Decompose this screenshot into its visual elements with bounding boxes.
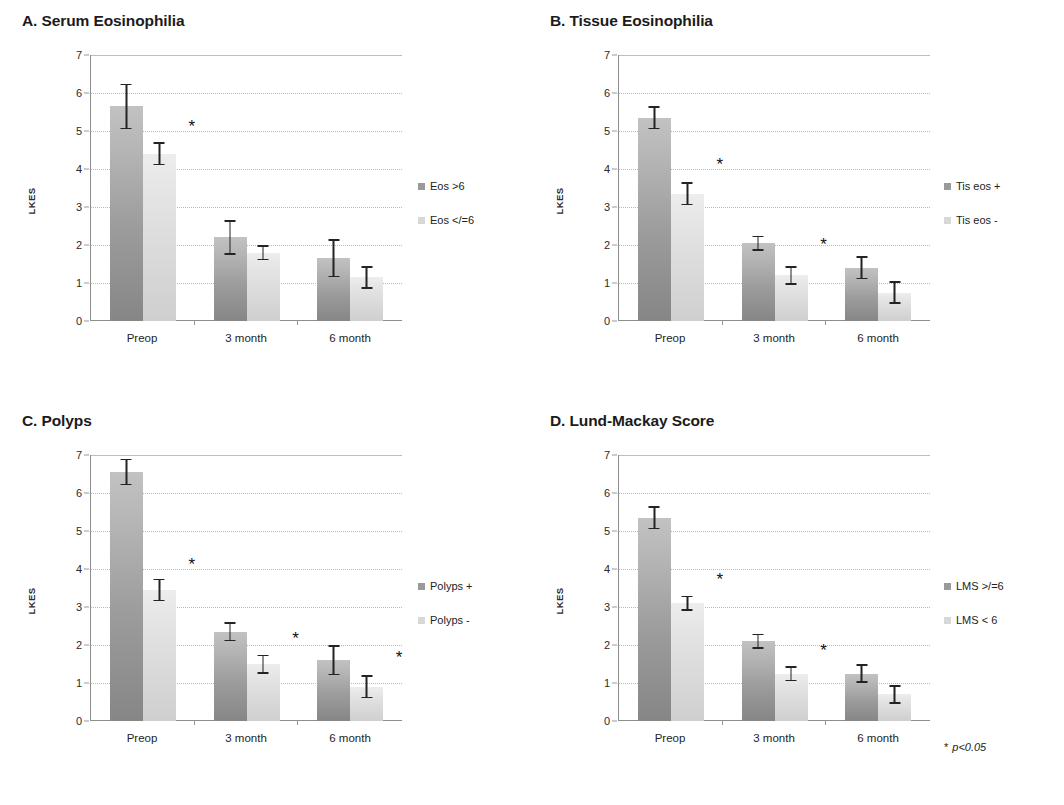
error-bar-cap-upper <box>121 84 132 86</box>
error-bar-cap-lower <box>154 164 165 166</box>
error-bar-cap-lower <box>328 276 339 278</box>
error-bar <box>889 281 900 304</box>
legend-swatch-icon <box>418 583 425 590</box>
y-axis-tick-label: 1 <box>76 278 82 289</box>
legend-item[interactable]: LMS < 6 <box>944 614 1058 626</box>
x-axis-labels: Preop3 month6 month <box>90 721 402 747</box>
y-axis-tickmark <box>84 645 89 646</box>
error-bar-cap-upper <box>328 645 339 647</box>
bar-group <box>298 55 402 321</box>
y-axis-tickmark <box>84 721 89 722</box>
error-bar-cap-upper <box>361 266 372 268</box>
error-bar-cap-lower <box>682 204 693 206</box>
error-bar-cap-lower <box>786 283 797 285</box>
y-axis-tickmark <box>612 207 617 208</box>
bar-group <box>826 455 930 721</box>
plot-canvas: ** <box>618 455 930 721</box>
chart-legend: Polyps +Polyps - <box>418 580 532 648</box>
y-axis-tick-label: 4 <box>604 164 610 175</box>
error-bar-stem <box>229 220 231 254</box>
legend-item[interactable]: Eos >6 <box>418 180 532 192</box>
y-axis-tickmark <box>612 455 617 456</box>
y-axis-tick-label: 5 <box>604 526 610 537</box>
error-bar-cap-lower <box>649 528 660 530</box>
legend-item[interactable]: Polyps + <box>418 580 532 592</box>
error-bar <box>361 266 372 289</box>
error-bar-cap-lower <box>361 697 372 699</box>
x-axis-label: Preop <box>618 721 722 747</box>
error-bar-cap-upper <box>328 239 339 241</box>
error-bar-stem <box>126 84 128 130</box>
panel-d: D. Lund-Mackay ScoreLKES01234567**Preop3… <box>532 400 1064 805</box>
chart-legend: LMS >/=6LMS < 6 <box>944 580 1058 648</box>
error-bar-stem <box>366 675 368 698</box>
y-axis-tickmark <box>84 493 89 494</box>
error-bar <box>753 634 764 649</box>
legend-item-label: Polyps + <box>430 580 473 592</box>
legend-item-label: LMS >/=6 <box>956 580 1004 592</box>
error-bar-cap-upper <box>786 266 797 268</box>
y-axis-tick-label: 4 <box>76 564 82 575</box>
legend-item[interactable]: LMS >/=6 <box>944 580 1058 592</box>
bar-pair <box>317 55 383 321</box>
legend-item[interactable]: Polyps - <box>418 614 532 626</box>
y-axis-label: LKES <box>26 588 37 615</box>
error-bar-cap-upper <box>649 106 660 108</box>
panel-title: C. Polyps <box>22 412 92 430</box>
plot-canvas: ** <box>618 55 930 321</box>
y-axis-tickmark <box>612 683 617 684</box>
error-bar-cap-upper <box>682 596 693 598</box>
x-axis-label: 3 month <box>194 321 298 347</box>
error-bar-cap-lower <box>258 672 269 674</box>
y-axis-tick-label: 3 <box>76 602 82 613</box>
chart-legend: Tis eos +Tis eos - <box>944 180 1058 248</box>
legend-item[interactable]: Tis eos + <box>944 180 1058 192</box>
error-bar-cap-upper <box>361 675 372 677</box>
bar-groups: * <box>91 55 402 321</box>
y-axis-ticks: 01234567 <box>590 455 616 747</box>
y-axis-tickmark <box>84 169 89 170</box>
y-axis-tick-label: 0 <box>604 316 610 327</box>
error-bar <box>889 685 900 704</box>
footnote-star-icon: * <box>944 741 948 753</box>
panel-a: A. Serum EosinophiliaLKES01234567*Preop3… <box>0 0 532 400</box>
error-bar-stem <box>790 266 792 285</box>
panel-title: B. Tissue Eosinophilia <box>550 12 713 30</box>
bar <box>638 118 671 321</box>
bar-group <box>195 55 299 321</box>
error-bar-cap-upper <box>154 579 165 581</box>
bar-pair: * <box>110 55 176 321</box>
y-axis-tick-label: 6 <box>76 88 82 99</box>
error-bar-stem <box>687 182 689 205</box>
error-bar <box>154 142 165 165</box>
y-axis-label: LKES <box>554 188 565 215</box>
legend-item[interactable]: Tis eos - <box>944 214 1058 226</box>
y-axis-tick-label: 0 <box>76 316 82 327</box>
y-axis-label: LKES <box>554 588 565 615</box>
y-axis-tickmark <box>612 531 617 532</box>
significance-footnote: *p<0.05 <box>944 741 986 753</box>
bar <box>247 664 280 721</box>
bar-group: * <box>91 455 195 721</box>
error-bar-cap-upper <box>649 506 660 508</box>
legend-item[interactable]: Eos </=6 <box>418 214 532 226</box>
bar <box>350 687 383 721</box>
y-axis-tick-label: 7 <box>604 50 610 61</box>
y-axis-tick-label: 1 <box>76 678 82 689</box>
x-axis-label: 6 month <box>826 321 930 347</box>
y-axis-tickmark <box>84 283 89 284</box>
y-axis-tick-label: 5 <box>76 526 82 537</box>
footnote-text: p<0.05 <box>952 741 986 753</box>
error-bar-cap-lower <box>225 253 236 255</box>
bar-group: * <box>298 455 402 721</box>
bar-pair: * <box>317 455 383 721</box>
error-bar-cap-lower <box>856 681 867 683</box>
x-axis-labels: Preop3 month6 month <box>618 321 930 347</box>
y-axis-tickmark <box>612 569 617 570</box>
bar-pair: * <box>742 455 808 721</box>
error-bar-stem <box>894 685 896 704</box>
x-axis-label: Preop <box>90 321 194 347</box>
x-axis-label: 6 month <box>298 321 402 347</box>
error-bar <box>258 655 269 674</box>
y-axis-tickmark <box>84 531 89 532</box>
